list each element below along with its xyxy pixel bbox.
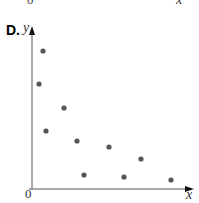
- data-point: [138, 156, 143, 161]
- data-point: [36, 81, 41, 86]
- scatter-plot: [0, 0, 199, 203]
- data-point: [168, 177, 173, 182]
- data-point: [40, 48, 45, 53]
- data-point: [43, 128, 48, 133]
- data-point: [74, 138, 79, 143]
- data-point: [61, 105, 66, 110]
- data-point: [106, 144, 111, 149]
- data-point: [121, 174, 126, 179]
- data-points: [36, 48, 173, 182]
- data-point: [81, 172, 86, 177]
- y-axis: [29, 26, 35, 189]
- x-axis: [29, 186, 194, 192]
